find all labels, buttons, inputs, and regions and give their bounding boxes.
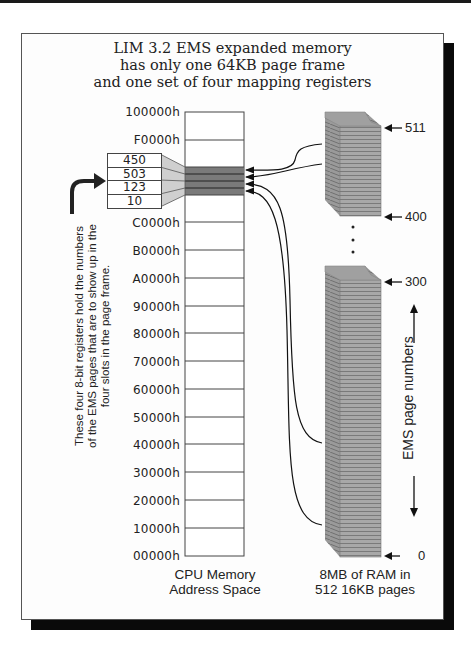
page-marker-300: 300: [405, 274, 427, 289]
ems-stack-lower: [325, 266, 381, 557]
ems-stack-upper: [325, 112, 381, 216]
cpu-memory-caption-line-2: Address Space: [165, 582, 265, 597]
mapping-arrows: [246, 144, 322, 525]
page-marker-400: 400: [405, 209, 427, 224]
page-marker-511: 511: [405, 120, 426, 135]
page-marker-0: 0: [418, 548, 425, 563]
mapping-registers: 450 503 123 10: [107, 153, 162, 209]
registers-note-line-2: of the EMS pages that are to show up in …: [86, 216, 99, 456]
register-funnel: [160, 154, 185, 207]
ems-page-numbers-label: EMS page numbers: [400, 336, 416, 460]
register-2: 123: [108, 181, 161, 195]
registers-note-line-1: These four 8-bit registers hold the numb…: [73, 216, 86, 456]
cpu-memory-caption: CPU Memory Address Space: [165, 567, 265, 597]
register-1: 503: [108, 168, 161, 182]
registers-note-line-3: four slots in the page frame.: [99, 216, 112, 456]
diagram-graphics: [0, 0, 471, 648]
register-pointer-arrow: [72, 181, 96, 214]
cpu-memory-caption-line-1: CPU Memory: [165, 567, 265, 582]
continuation-dot: [352, 251, 355, 254]
continuation-dot: [352, 226, 355, 229]
ems-ram-caption-line-2: 512 16KB pages: [310, 582, 420, 597]
registers-note: These four 8-bit registers hold the numb…: [73, 216, 112, 456]
ems-ram-caption-line-1: 8MB of RAM in: [310, 567, 420, 582]
register-3: 10: [108, 195, 161, 209]
ems-ram-caption: 8MB of RAM in 512 16KB pages: [310, 567, 420, 597]
register-0: 450: [108, 154, 161, 168]
continuation-dot: [352, 239, 355, 242]
cpu-memory-column: [185, 112, 244, 556]
